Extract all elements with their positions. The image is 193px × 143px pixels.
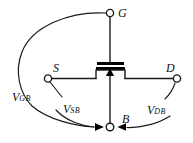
vsb-leader-line	[50, 82, 62, 97]
bulk-terminal-label: B	[122, 113, 129, 125]
circuit-schematic-canvas	[0, 0, 193, 143]
vdb-voltage-label: VDB	[147, 104, 166, 116]
drain-terminal-label: D	[166, 62, 175, 74]
source-terminal-node[interactable]	[44, 75, 51, 82]
gate-terminal-label: G	[118, 7, 127, 19]
mosfet-circuit-figure: G S D B VGB VSB VDB	[0, 0, 193, 143]
vdb-subscript: DB	[154, 107, 165, 116]
drain-terminal-node[interactable]	[173, 75, 180, 82]
vdb-leader-line	[165, 83, 175, 99]
bulk-terminal-node[interactable]	[106, 123, 114, 131]
vdb-measurement-arc	[127, 116, 170, 128]
vsb-arrowhead-icon	[95, 123, 104, 130]
vsb-voltage-label: VSB	[63, 103, 80, 115]
gate-terminal-node[interactable]	[106, 9, 113, 16]
vgb-voltage-label: VGB	[12, 91, 31, 103]
vgb-subscript: GB	[19, 94, 30, 103]
source-terminal-label: S	[53, 62, 59, 74]
vsb-subscript: SB	[70, 106, 80, 115]
